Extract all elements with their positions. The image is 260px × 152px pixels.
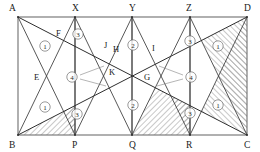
region-label-2: 2 xyxy=(131,42,135,50)
point-label-g: G xyxy=(144,72,150,82)
vertex-point-x xyxy=(74,16,76,18)
vertex-point-p xyxy=(74,134,76,136)
vertex-point-y xyxy=(131,16,133,18)
region-label-1: 1 xyxy=(43,104,47,112)
vertex-label-q: Q xyxy=(129,140,136,150)
point-label-f: F xyxy=(56,28,61,38)
leader-line xyxy=(157,79,183,86)
diagram-canvas: 132314413231 AXYZDBPQRCEFGHIJK xyxy=(0,0,260,152)
vertex-point-c xyxy=(246,134,248,136)
region-label-3: 3 xyxy=(188,38,192,46)
point-label-i: I xyxy=(152,43,155,53)
region-label-3: 3 xyxy=(75,111,79,119)
leader-line xyxy=(80,79,106,86)
vertex-label-x: X xyxy=(72,3,79,13)
region-label-1: 1 xyxy=(43,43,47,51)
diagonals xyxy=(18,17,247,135)
geometry-figure: 132314413231 AXYZDBPQRCEFGHIJK xyxy=(0,0,260,152)
vertex-label-a: A xyxy=(9,3,16,13)
region-label-3: 3 xyxy=(76,31,80,39)
vertex-point-b xyxy=(17,134,19,136)
vertex-point-d xyxy=(246,16,248,18)
vertex-label-y: Y xyxy=(129,3,136,13)
vertex-point-a xyxy=(17,16,19,18)
region-label-4: 4 xyxy=(189,74,193,82)
vertex-label-r: R xyxy=(186,140,193,150)
vertex-label-c: C xyxy=(244,140,250,150)
vertex-label-p: P xyxy=(72,140,77,150)
point-label-k: K xyxy=(109,67,116,77)
region-label-3: 3 xyxy=(188,110,192,118)
point-label-e: E xyxy=(34,72,39,82)
vertex-label-z: Z xyxy=(186,3,192,13)
region-label-2: 2 xyxy=(131,102,135,110)
vertex-point-r xyxy=(189,134,191,136)
vertex-label-d: D xyxy=(244,3,251,13)
region-label-1: 1 xyxy=(216,102,220,110)
vertex-label-b: B xyxy=(9,140,15,150)
vertex-point-z xyxy=(189,16,191,18)
point-label-j: J xyxy=(104,40,108,50)
point-label-h: H xyxy=(113,44,119,54)
vertex-point-q xyxy=(131,134,133,136)
region-label-1: 1 xyxy=(216,43,220,51)
region-label-4: 4 xyxy=(70,74,74,82)
